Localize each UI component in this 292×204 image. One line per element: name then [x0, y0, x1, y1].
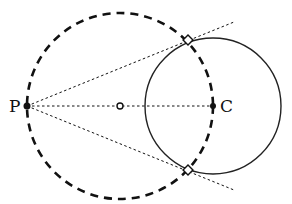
point-c-marker	[210, 103, 216, 109]
tangent-point-upper	[183, 35, 193, 45]
label-c: C	[220, 96, 233, 116]
midpoint-marker	[117, 103, 123, 109]
point-p-marker	[24, 103, 31, 110]
label-p: P	[9, 96, 20, 116]
diagram-canvas: P C	[0, 0, 292, 204]
